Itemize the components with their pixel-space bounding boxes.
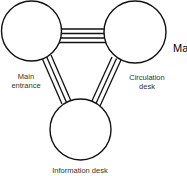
node-circulation-desk xyxy=(104,1,166,63)
label-main-entrance-line2: entrance xyxy=(11,81,40,90)
connector-main-entrance-circulation-desk xyxy=(58,29,109,43)
connector-main-entrance-information-desk xyxy=(42,55,71,104)
label-main-entrance-line1: Main xyxy=(18,72,34,81)
label-circulation-desk-line1: Circulation xyxy=(129,73,164,82)
bubble-diagram: Main entrance Circulation desk Informati… xyxy=(0,0,187,176)
label-information-desk: Information desk xyxy=(52,166,108,175)
connector-circulation-desk-information-desk xyxy=(91,57,121,106)
cropped-heading-text: Ma xyxy=(173,42,187,54)
label-circulation-desk-line2: desk xyxy=(139,82,155,91)
node-main-entrance xyxy=(2,1,62,61)
node-information-desk xyxy=(50,99,111,160)
